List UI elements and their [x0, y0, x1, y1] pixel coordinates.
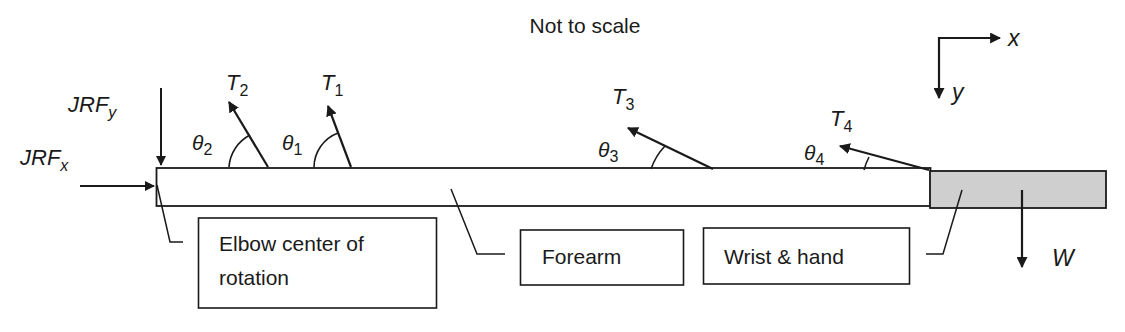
t3-force: T3 θ3: [598, 84, 713, 169]
t4-force: T4 θ4: [804, 106, 929, 170]
w-label: W: [1052, 245, 1076, 271]
y-axis-label: y: [950, 79, 965, 105]
jrf-y-label: JRFy: [67, 92, 117, 121]
jrf-x-force: JRFx: [19, 145, 154, 186]
forearm-segment: [157, 168, 931, 206]
theta2-arc: [229, 135, 250, 167]
forearm-label: Forearm: [542, 245, 621, 268]
t2-arrow-icon: [229, 102, 268, 167]
t2-force: T2 θ2: [192, 70, 268, 167]
theta3-arc: [651, 146, 665, 169]
jrf-y-force: JRFy: [67, 88, 161, 165]
not-to-scale-note: Not to scale: [530, 14, 641, 37]
elbow-label-line1: Elbow center of: [219, 232, 364, 255]
wrist-hand-label-box: Wrist & hand: [704, 228, 910, 284]
t3-arrow-icon: [628, 128, 713, 169]
coordinate-axes: x y: [939, 25, 1021, 105]
theta4-label: θ4: [804, 141, 824, 168]
t4-label: T4: [830, 106, 852, 135]
elbow-label-line2: rotation: [219, 266, 289, 289]
wrist-hand-segment: [930, 171, 1106, 208]
x-axis-label: x: [1007, 25, 1021, 51]
jrf-x-label: JRFx: [19, 145, 69, 174]
t2-label: T2: [226, 70, 248, 99]
elbow-label-box: Elbow center of rotation: [199, 218, 437, 308]
forearm-free-body-diagram: Not to scale x y JRFy JRFx T2 θ2 T1 θ1 T…: [0, 0, 1125, 332]
theta3-label: θ3: [598, 138, 618, 165]
forearm-label-box: Forearm: [521, 230, 684, 285]
theta1-arc: [314, 133, 338, 167]
t4-arrow-icon: [840, 146, 929, 170]
theta2-label: θ2: [192, 131, 212, 158]
t1-force: T1 θ1: [282, 70, 351, 167]
t3-label: T3: [612, 84, 634, 113]
wrist-hand-label: Wrist & hand: [724, 245, 844, 268]
theta1-label: θ1: [282, 131, 302, 158]
t1-label: T1: [321, 70, 343, 99]
